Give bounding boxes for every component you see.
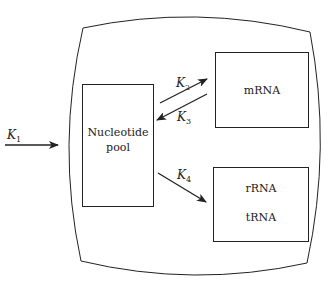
mrna-box: mRNA (216, 53, 309, 128)
diagram-canvas: Nucleotide pool mRNA rRNA tRNA K1 K2 K3 (0, 0, 332, 286)
diagram-svg: Nucleotide pool mRNA rRNA tRNA K1 K2 K3 (0, 0, 332, 286)
mrna-label: mRNA (244, 84, 281, 97)
nucleotide-pool-label-line2: pool (106, 141, 130, 154)
k3-arrow: K3 (157, 94, 207, 126)
k4-arrow: K4 (158, 168, 206, 202)
trna-label: tRNA (246, 211, 277, 224)
k3-label: K3 (176, 110, 191, 126)
k4-label: K4 (176, 168, 191, 184)
k2-arrow: K2 (160, 76, 207, 103)
rrna-label: rRNA (245, 182, 277, 195)
nucleotide-pool-label-line1: Nucleotide (87, 126, 148, 139)
k1-influx-arrow: K1 (5, 128, 58, 145)
rrna-trna-box: rRNA tRNA (214, 168, 309, 242)
nucleotide-pool-box: Nucleotide pool (83, 85, 154, 207)
k1-label: K1 (6, 128, 21, 144)
k2-label: K2 (175, 76, 190, 92)
